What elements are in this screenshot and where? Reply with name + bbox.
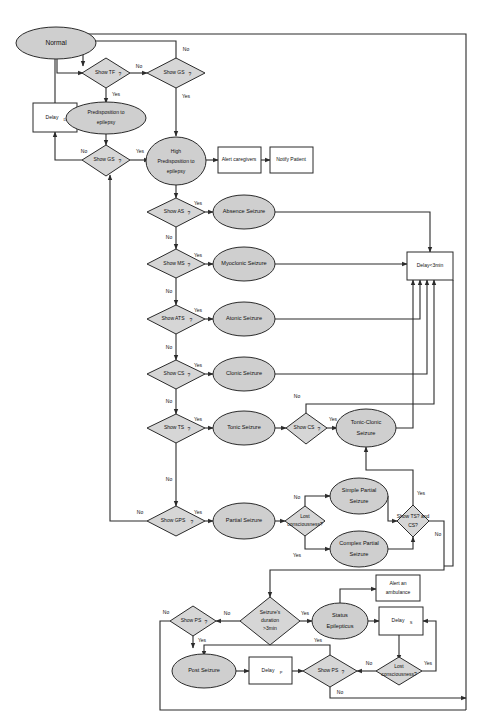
node-high-predisposition-line1: High [171, 148, 182, 154]
decision-show-ps-left-sub: ? [205, 619, 208, 625]
decision-seizure-duration[interactable]: Seizure's duration >3min [240, 597, 300, 645]
process-delay-s-sub: S [410, 620, 413, 625]
edge-clonic-delay3 [275, 280, 427, 374]
process-alert-caregivers[interactable]: Alert caregivers [218, 147, 261, 173]
edge-tonicclonic-delay3 [396, 280, 413, 428]
edge-label-showtsandcs-no: No [435, 531, 442, 537]
decision-show-ms-sub: ? [188, 262, 191, 268]
decision-show-ps-bottom[interactable]: Show PS ? [303, 655, 357, 687]
node-predisposition[interactable]: Predisposition to epilepsy [66, 102, 146, 134]
edge-showpsbottom-no-outerright [330, 687, 466, 698]
node-absence-seizure[interactable]: Absence Seizure [213, 195, 275, 229]
node-simple-partial-line1: Simple Partial [342, 487, 377, 493]
decision-seizure-duration-line2: duration [261, 617, 279, 623]
decision-show-ts-and-cs[interactable]: Show TS? and CS? [397, 505, 430, 537]
node-simple-partial-seizure[interactable]: Simple Partial Seizure [330, 478, 388, 514]
node-status-epilepticus[interactable]: Status Epilepticus [312, 603, 368, 639]
node-atonic-seizure[interactable]: Atonic Seizure [213, 302, 275, 336]
decision-show-ps-left-label: Show PS [181, 617, 202, 623]
decision-show-ps-left[interactable]: Show PS ? [170, 606, 216, 636]
edge-label-lostconsc2-yes: Yes [424, 660, 433, 666]
edge-label-showpsleft-yes: Yes [198, 637, 207, 643]
edge-label-showms-yes: Yes [194, 252, 203, 258]
process-delay-s[interactable]: Delay S [379, 607, 423, 635]
edge-label-showts-no: No [166, 476, 173, 482]
edge-showcs2-no-delay3 [306, 280, 434, 413]
decision-seizure-duration-line1: Seizure's [260, 609, 281, 615]
decision-show-as-label: Show AS [164, 208, 185, 214]
decision-lost-consciousness-2[interactable]: Lost consciousness? [376, 657, 422, 685]
process-delay-p[interactable]: Delay P [249, 657, 292, 684]
node-post-seizure-label: Post Seizure [188, 667, 220, 673]
node-atonic-seizure-label: Atonic Seizure [226, 315, 262, 321]
node-predisposition-line1: Predisposition to [88, 109, 125, 115]
flowchart-canvas: No No Yes Yes No Yes Yes No Yes No Yes N… [0, 0, 490, 720]
edge-label-showgstop-no: No [183, 46, 190, 52]
edge-label-showcs2-no: No [294, 393, 301, 399]
edge-label-showtf-no: No [136, 63, 143, 69]
edge-normal-to-showtf [57, 58, 83, 73]
decision-show-cs-label: Show CS [164, 370, 186, 376]
node-clonic-seizure[interactable]: Clonic Seizure [213, 357, 275, 391]
edge-lostconsc-yes-complex [305, 536, 330, 549]
decision-show-cs2-sub: ? [318, 426, 321, 432]
edge-label-showtf-yes: Yes [112, 91, 121, 97]
process-delay-3min[interactable]: Delay<3min [407, 252, 453, 280]
decision-show-gps-sub: ? [191, 519, 194, 525]
process-notify-patient[interactable]: Notify Patient [270, 147, 313, 173]
decision-show-tf-sub: ? [119, 71, 122, 77]
node-normal[interactable]: Normal [16, 27, 96, 59]
decision-show-gs-top-label: Show GS [163, 69, 185, 75]
decision-show-tf[interactable]: Show TF ? [82, 58, 130, 88]
edge-simple-showtsandcs [388, 496, 397, 521]
node-clonic-seizure-label: Clonic Seizure [226, 370, 262, 376]
decision-show-cs2[interactable]: Show CS ? [286, 413, 327, 444]
node-tonic-clonic-seizure[interactable]: Tonic-Clonic Seizure [336, 409, 396, 447]
edge-absence-delay3 [275, 212, 430, 252]
edge-label-showgps-yes: Yes [194, 509, 203, 515]
decision-show-gs-mid[interactable]: Show GS ? [82, 145, 130, 176]
node-high-predisposition[interactable]: High Predisposition to epilepsy [146, 137, 206, 185]
decision-show-gs-top-sub: ? [189, 71, 192, 77]
process-alert-ambulance-line1: Alert an [389, 580, 406, 586]
node-simple-partial-line2: Seizure [350, 498, 369, 504]
node-post-seizure[interactable]: Post Seizure [172, 654, 236, 688]
node-tonic-seizure-label: Tonic Seizure [227, 424, 261, 430]
edge-label-showtsandcs-yes: Yes [417, 490, 426, 496]
node-normal-label: Normal [45, 39, 67, 46]
edge-label-showgstop-yes: Yes [182, 93, 191, 99]
edge-label-showats-no: No [166, 344, 173, 350]
decision-show-cs2-label: Show CS [294, 424, 316, 430]
node-complex-partial-seizure[interactable]: Complex Partial Seizure [330, 531, 388, 567]
process-notify-patient-label: Notify Patient [276, 156, 306, 162]
decision-show-ms-label: Show MS [163, 260, 185, 266]
edge-label-seizdur-no: No [224, 610, 231, 616]
decision-lost-consciousness-line1: Lost [300, 513, 310, 519]
process-alert-ambulance[interactable]: Alert an ambulance [376, 575, 420, 601]
edge-label-showats-yes: Yes [194, 307, 203, 313]
decision-show-ts-label: Show TS [164, 424, 185, 430]
node-high-predisposition-line2: Predisposition to [158, 158, 195, 164]
edge-label-showms-no: No [166, 288, 173, 294]
edge-showpsbottom-yes-postseizure [204, 645, 330, 656]
process-delay-s-label: Delay [392, 617, 405, 623]
process-delay-p-sub: P [280, 670, 283, 675]
decision-show-ts-sub: ? [188, 426, 191, 432]
decision-show-gs-top[interactable]: Show GS ? [147, 58, 205, 88]
node-myoclonic-seizure[interactable]: Myoclonic Seizure [213, 247, 275, 281]
edge-label-showas-no: No [166, 234, 173, 240]
process-alert-caregivers-label: Alert caregivers [222, 156, 257, 162]
decision-lost-consciousness-line2: consciousness? [287, 521, 323, 527]
edge-label-showgsmid-yes: Yes [136, 148, 145, 154]
decision-show-cs-sub: ? [188, 372, 191, 378]
edge-label-lostconsc-no: No [294, 494, 301, 500]
node-tonic-seizure[interactable]: Tonic Seizure [213, 411, 275, 445]
node-partial-seizure[interactable]: Partial Seizure [213, 503, 275, 539]
decision-lost-consciousness[interactable]: Lost consciousness? [285, 506, 325, 536]
edge-label-seizdur-yes: Yes [301, 610, 310, 616]
edge-atonic-delay3 [275, 280, 420, 319]
decision-show-tf-label: Show TF [95, 69, 115, 75]
edge-label-showcs2-yes: Yes [329, 416, 338, 422]
edge-delay3-down [444, 280, 453, 566]
edge-label-showgps-no: No [137, 509, 144, 515]
